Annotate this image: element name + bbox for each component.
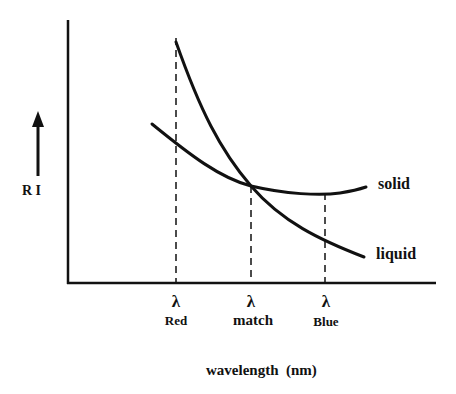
liquid-curve bbox=[176, 42, 364, 257]
x-axis-label: wavelength (nm) bbox=[206, 362, 317, 379]
lambda-blue-symbol: λ bbox=[322, 292, 330, 312]
y-axis-label: R I bbox=[22, 183, 41, 199]
dispersion-diagram bbox=[0, 0, 456, 394]
up-arrow-icon bbox=[32, 111, 44, 176]
red-tick-label: Red bbox=[165, 313, 187, 329]
blue-tick-label: Blue bbox=[313, 314, 338, 330]
match-tick-label: match bbox=[233, 312, 273, 329]
lambda-red-symbol: λ bbox=[172, 292, 180, 312]
solid-label: solid bbox=[378, 175, 410, 193]
solid-curve bbox=[152, 124, 366, 194]
liquid-label: liquid bbox=[376, 245, 416, 263]
lambda-match-symbol: λ bbox=[247, 292, 255, 312]
